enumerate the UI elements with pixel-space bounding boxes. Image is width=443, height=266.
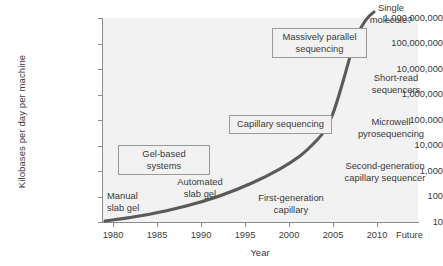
annotation-first-generation-capillary: First-generation capillary	[245, 192, 337, 215]
annotation-capillary-sequencing: Capillary sequencing	[229, 115, 332, 134]
annotation-gel-based-systems: Gel-based systems	[118, 145, 210, 175]
annotation-massively-parallel-sequencing: Massively parallel sequencing	[272, 28, 367, 58]
annotation-single-molecule: Single molecule?	[352, 2, 430, 25]
annotation-automated-slab-gel: Automated slab gel	[165, 176, 235, 199]
annotation-manual-slab-gel: Manual slab gel	[107, 190, 167, 213]
annotation-short-read-sequencers: Short-read sequencers	[356, 72, 436, 95]
sequencing-throughput-chart: 1,000,000,000 100,000,000 10,000,000 1,0…	[0, 0, 443, 266]
annotation-second-generation-capillary-sequencer: Second-generation capillary sequencer	[328, 160, 442, 183]
annotation-microwell-pyrosequencing: Microwell pyrosequencing	[342, 116, 440, 139]
